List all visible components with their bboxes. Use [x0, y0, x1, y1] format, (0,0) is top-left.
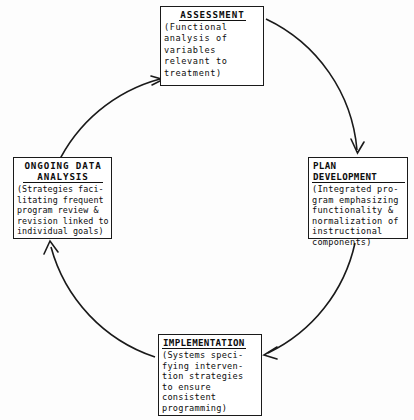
arrowhead-into-plan — [351, 139, 364, 153]
node-implementation-body: (Systems speci- fying interven- tion str… — [162, 350, 259, 414]
node-assessment-body: (Functional analysis of variables releva… — [164, 22, 261, 79]
arrowhead-into-implementation — [264, 347, 277, 359]
arc-implementation-to-ongoing — [51, 247, 155, 357]
node-ongoing-data-analysis-body: (Strategies faci- litating frequent prog… — [17, 184, 109, 237]
node-ongoing-data-analysis: ONGOING DATA ANALYSIS (Strategies faci- … — [13, 157, 112, 239]
node-assessment-title: ASSESSMENT — [164, 9, 261, 21]
node-plan-development: PLAN DEVELOPMENT (Integrated pro- gram e… — [308, 157, 408, 239]
arc-plan-to-implementation — [268, 243, 355, 353]
arc-ongoing-to-assessment — [57, 79, 160, 165]
node-plan-development-title: PLAN DEVELOPMENT — [312, 160, 405, 183]
node-implementation: IMPLEMENTATION (Systems speci- fying int… — [158, 334, 262, 416]
node-plan-development-body: (Integrated pro- gram emphasizing functi… — [312, 184, 405, 248]
cycle-diagram-canvas: ASSESSMENT (Functional analysis of varia… — [0, 0, 414, 420]
arc-assessment-to-plan — [266, 19, 357, 150]
node-assessment: ASSESSMENT (Functional analysis of varia… — [160, 6, 264, 86]
node-ongoing-data-analysis-title: ONGOING DATA ANALYSIS — [17, 160, 109, 183]
node-implementation-title: IMPLEMENTATION — [162, 337, 259, 349]
